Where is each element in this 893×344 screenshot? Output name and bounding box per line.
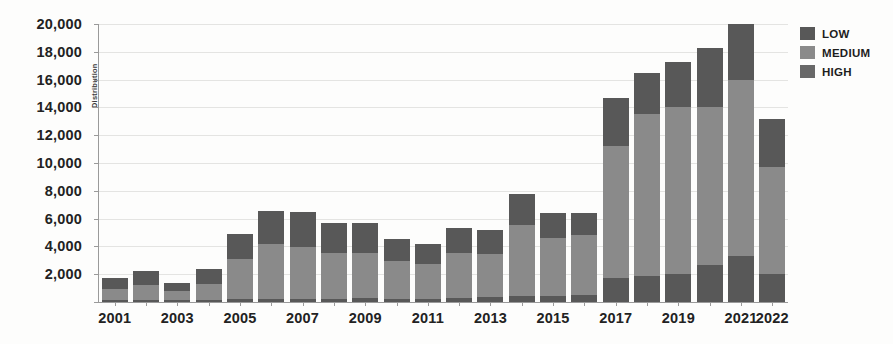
x-tick-mark-2001	[115, 302, 116, 306]
bar-segment-2003-medium	[164, 291, 190, 301]
y-tick-label-8000: 8,000	[16, 184, 82, 199]
bar-2003[interactable]	[164, 283, 190, 302]
bar-segment-2020-high	[697, 48, 723, 108]
y-tick-label-4000: 4,000	[16, 239, 82, 254]
bar-segment-2012-medium	[446, 253, 472, 298]
x-tick-mark-2015	[553, 302, 554, 306]
bar-segment-2018-high	[634, 73, 660, 115]
bar-segment-2008-medium	[321, 253, 347, 298]
bar-segment-2004-high	[196, 269, 222, 284]
bar-segment-2010-high	[384, 239, 410, 261]
bar-segment-2004-medium	[196, 284, 222, 300]
y-tick-label-18000: 18,000	[16, 45, 82, 60]
bar-segment-2022-high	[759, 119, 785, 168]
bar-2016[interactable]	[571, 213, 597, 302]
bar-2014[interactable]	[509, 194, 535, 302]
x-tick-mark-2020	[710, 302, 711, 306]
bar-2011[interactable]	[415, 244, 441, 302]
bar-segment-2009-medium	[352, 253, 378, 298]
x-tick-mark-2013	[490, 302, 491, 306]
x-tick-mark-2014	[522, 302, 523, 306]
bar-segment-2008-high	[321, 223, 347, 254]
bar-2020[interactable]	[697, 48, 723, 302]
x-tick-mark-2011	[428, 302, 429, 306]
y-tick-mark-6000	[94, 219, 98, 220]
bar-2018[interactable]	[634, 73, 660, 302]
y-tick-label-6000: 6,000	[16, 212, 82, 227]
legend-label-medium: MEDIUM	[822, 47, 870, 59]
bar-2005[interactable]	[227, 234, 253, 302]
bar-2013[interactable]	[477, 230, 503, 302]
x-tick-mark-2022	[772, 302, 773, 306]
y-tick-label-20000: 20,000	[16, 17, 82, 32]
bar-segment-2009-high	[352, 223, 378, 253]
y-tick-mark-18000	[94, 52, 98, 53]
x-tick-mark-2005	[240, 302, 241, 306]
x-tick-label-2019: 2019	[648, 310, 708, 326]
legend-swatch-medium	[800, 46, 815, 59]
bar-segment-2013-medium	[477, 254, 503, 297]
x-tick-label-2015: 2015	[523, 310, 583, 326]
legend-swatch-low	[800, 27, 815, 40]
legend-item-high[interactable]: HIGH	[800, 62, 890, 81]
bar-segment-2014-medium	[509, 225, 535, 297]
x-tick-label-2011: 2011	[398, 310, 458, 326]
bar-2008[interactable]	[321, 223, 347, 302]
x-tick-label-2009: 2009	[335, 310, 395, 326]
bar-segment-2021-medium	[728, 80, 754, 257]
y-tick-mark-16000	[94, 80, 98, 81]
bar-segment-2022-low	[759, 274, 785, 302]
y-tick-mark-2000	[94, 274, 98, 275]
x-tick-mark-2018	[647, 302, 648, 306]
bar-segment-2018-low	[634, 276, 660, 302]
stacked-bar-chart: 2,0004,0006,0008,00010,00012,00014,00016…	[0, 0, 893, 344]
bar-segment-2014-high	[509, 194, 535, 225]
bar-segment-2006-medium	[258, 244, 284, 299]
y-tick-mark-20000	[94, 24, 98, 25]
bar-2009[interactable]	[352, 223, 378, 302]
bar-2022[interactable]	[759, 119, 785, 302]
bar-segment-2007-high	[290, 212, 316, 247]
bar-segment-2005-high	[227, 234, 253, 259]
y-tick-label-14000: 14,000	[16, 100, 82, 115]
bar-segment-2018-medium	[634, 114, 660, 276]
y-tick-mark-8000	[94, 191, 98, 192]
bar-2021[interactable]	[728, 24, 754, 302]
legend-label-low: LOW	[822, 28, 850, 40]
bar-2002[interactable]	[133, 271, 159, 302]
bar-segment-2005-medium	[227, 259, 253, 299]
bar-2010[interactable]	[384, 239, 410, 302]
x-tick-label-2017: 2017	[586, 310, 646, 326]
x-tick-mark-2002	[146, 302, 147, 306]
legend-item-medium[interactable]: MEDIUM	[800, 43, 890, 62]
x-tick-label-2001: 2001	[85, 310, 145, 326]
bar-2004[interactable]	[196, 269, 222, 302]
bar-segment-2021-high	[728, 24, 754, 80]
bar-segment-2015-high	[540, 213, 566, 238]
y-tick-mark-12000	[94, 135, 98, 136]
bar-2012[interactable]	[446, 228, 472, 302]
bar-segment-2019-low	[665, 274, 691, 302]
bar-2019[interactable]	[665, 62, 691, 302]
bar-2007[interactable]	[290, 212, 316, 302]
bar-2006[interactable]	[258, 211, 284, 302]
legend-item-low[interactable]: LOW	[800, 24, 890, 43]
bar-segment-2016-medium	[571, 235, 597, 295]
y-axis-tick-labels: 2,0004,0006,0008,00010,00012,00014,00016…	[0, 0, 82, 344]
y-tick-mark-10000	[94, 163, 98, 164]
bar-segment-2021-low	[728, 256, 754, 302]
bar-segment-2019-high	[665, 62, 691, 108]
bar-2001[interactable]	[102, 278, 128, 302]
bar-2015[interactable]	[540, 213, 566, 302]
x-tick-mark-2012	[459, 302, 460, 306]
x-axis-line	[98, 302, 788, 303]
bar-segment-2020-low	[697, 265, 723, 302]
bar-segment-2003-high	[164, 283, 190, 291]
y-tick-mark-0	[94, 302, 98, 303]
bar-2017[interactable]	[603, 98, 629, 302]
bar-segment-2016-high	[571, 213, 597, 235]
legend-swatch-high	[800, 65, 815, 78]
bar-segment-2020-medium	[697, 107, 723, 265]
plot-area	[99, 24, 788, 302]
bar-segment-2015-medium	[540, 238, 566, 296]
